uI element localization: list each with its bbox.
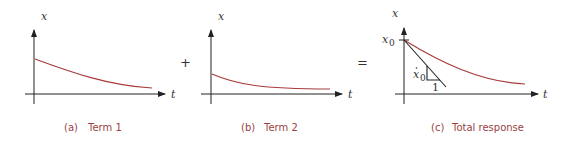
x-axis-label: t: [348, 88, 353, 101]
caption-text: Term 1: [87, 122, 122, 133]
x-axis-label: t: [543, 88, 548, 101]
slope-subscript: 0: [420, 73, 426, 83]
panel-c-total-response: x t x 0 x 0 1 (c) Total response: [382, 7, 548, 133]
slope-label: x: [413, 68, 420, 81]
initial-value-label: x: [382, 33, 389, 46]
slope-run-label: 1: [432, 81, 439, 94]
plus-operator: +: [180, 55, 191, 70]
decay-curve-term-1: [35, 59, 152, 88]
caption-text: Term 2: [263, 122, 298, 133]
diagram-canvas: x t (a) Term 1 + x t (b) Term 2 = x t x …: [0, 0, 567, 142]
caption-letter: (b): [241, 122, 255, 133]
derivative-dot: [416, 67, 418, 69]
initial-value-subscript: 0: [389, 38, 395, 48]
panel-b-term-2: x t (b) Term 2: [201, 10, 353, 133]
x-axis-label: t: [171, 88, 176, 101]
y-axis-label: x: [218, 10, 225, 23]
y-axis-label: x: [41, 10, 48, 23]
y-axis-label: x: [392, 7, 399, 20]
equals-operator: =: [357, 55, 368, 70]
panel-a-term-1: x t (a) Term 1: [25, 10, 176, 133]
caption-text: Total response: [451, 122, 524, 133]
caption-letter: (a): [64, 122, 78, 133]
decay-curve-term-2: [212, 74, 330, 89]
caption-letter: (c): [431, 122, 444, 133]
